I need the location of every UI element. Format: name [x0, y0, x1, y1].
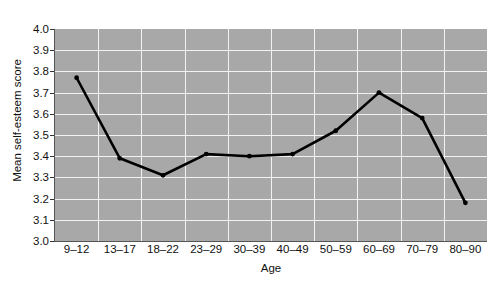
x-axis-tick-label: 50–59	[320, 243, 352, 255]
x-axis-line	[55, 241, 487, 242]
y-axis-tick-label: 4.0	[33, 23, 49, 35]
y-axis-tick-label: 3.4	[33, 150, 49, 162]
data-point-marker	[463, 200, 468, 205]
y-axis-tick-label: 3.2	[33, 193, 49, 205]
x-axis-tick-label: 13–17	[104, 243, 136, 255]
data-point-marker	[247, 154, 252, 159]
series-line	[55, 29, 487, 241]
plot-area	[55, 29, 487, 241]
x-axis-tick-label: 30–39	[233, 243, 265, 255]
x-axis-tick-label: 80–90	[449, 243, 481, 255]
y-axis-tick-label: 3.6	[33, 108, 49, 120]
x-axis-tick-label: 40–49	[277, 243, 309, 255]
x-axis-tick-label: 18–22	[147, 243, 179, 255]
x-axis-tick-labels: 9–1213–1718–2223–2930–3940–4950–5960–697…	[55, 243, 487, 259]
x-axis-tick-label: 9–12	[64, 243, 90, 255]
x-axis-tick-label: 23–29	[190, 243, 222, 255]
y-axis-tick-label: 3.0	[33, 235, 49, 247]
y-axis-tick-label: 3.7	[33, 87, 49, 99]
y-axis-tick-label: 3.5	[33, 129, 49, 141]
chart-figure: Mean self-esteem score 3.03.13.23.33.43.…	[0, 0, 499, 283]
data-point-marker	[377, 90, 382, 95]
data-point-marker	[117, 156, 122, 161]
data-point-marker	[204, 152, 209, 157]
y-axis-tick-label: 3.3	[33, 171, 49, 183]
y-axis-tick-label: 3.9	[33, 44, 49, 56]
y-axis-tick-label: 3.1	[33, 214, 49, 226]
data-series-line	[77, 78, 466, 203]
x-axis-tick-label: 60–69	[363, 243, 395, 255]
y-axis-tick-label: 3.8	[33, 65, 49, 77]
x-axis-tick-label: 70–79	[406, 243, 438, 255]
y-axis-tick-labels: 3.03.13.23.33.43.53.63.73.83.94.0	[24, 29, 49, 241]
data-point-marker	[161, 173, 166, 178]
data-point-marker	[290, 152, 295, 157]
x-axis-title: Age	[55, 262, 487, 274]
data-point-marker	[74, 75, 79, 80]
data-point-marker	[333, 128, 338, 133]
data-point-marker	[420, 116, 425, 121]
